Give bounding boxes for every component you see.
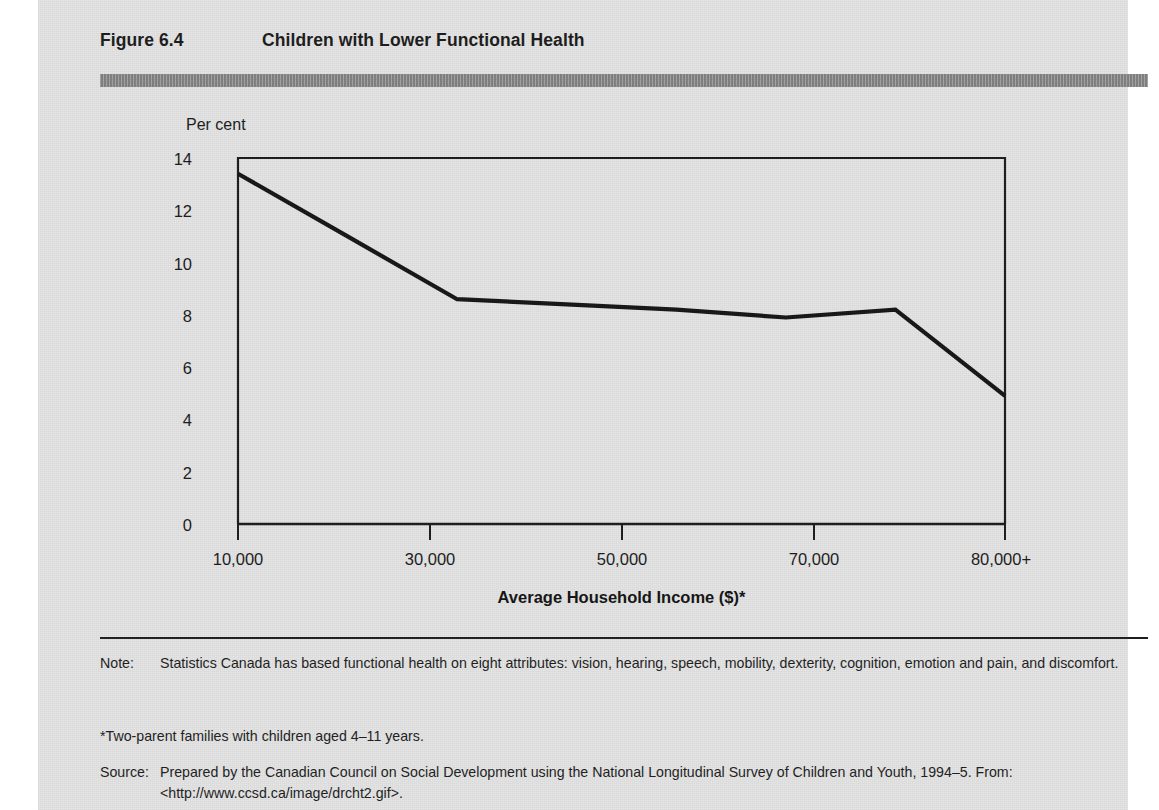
x-axis-title: Average Household Income ($)* — [238, 588, 1005, 607]
source-label: Source: — [100, 762, 160, 783]
note-block: Note: Statistics Canada has based functi… — [100, 653, 1150, 674]
footer-divider — [100, 637, 1148, 639]
figure-page: Figure 6.4 Children with Lower Functiona… — [0, 0, 1159, 810]
x-tick-label: 30,000 — [405, 550, 455, 569]
source-block: Source: Prepared by the Canadian Council… — [100, 762, 1150, 803]
x-tick-label: 80,000+ — [971, 550, 1031, 569]
note-label: Note: — [100, 653, 160, 674]
chart: Per cent 14 12 10 8 6 4 2 0 — [38, 0, 1128, 640]
plot-svg — [38, 0, 1128, 640]
data-series-line — [238, 174, 1005, 396]
source-text-line-1: Prepared by the Canadian Council on Soci… — [160, 764, 873, 780]
x-tick-label: 10,000 — [213, 550, 263, 569]
plot-frame — [238, 158, 1005, 524]
footnote-text: *Two-parent families with children aged … — [100, 726, 424, 747]
x-tick-label: 50,000 — [597, 550, 647, 569]
x-tick-label: 70,000 — [789, 550, 839, 569]
figure-panel: Figure 6.4 Children with Lower Functiona… — [38, 0, 1128, 810]
note-text: Statistics Canada has based functional h… — [160, 653, 1150, 674]
